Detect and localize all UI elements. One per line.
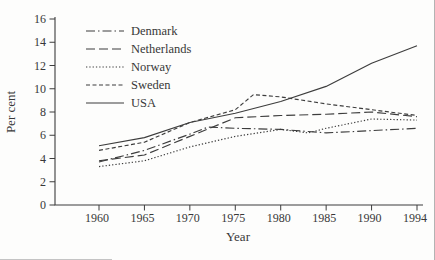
y-axis-title: Per cent — [3, 90, 18, 133]
y-tick-label: 0 — [40, 198, 46, 212]
x-axis-title: Year — [226, 229, 251, 244]
x-tick-label: 1960 — [85, 211, 109, 225]
legend-item-norway: Norway — [86, 60, 172, 74]
y-tick-label: 14 — [34, 35, 46, 49]
legend: DenmarkNetherlandsNorwaySwedenUSA — [86, 24, 192, 110]
axis-lines — [55, 17, 423, 205]
legend-item-netherlands: Netherlands — [86, 42, 192, 56]
legend-item-usa: USA — [86, 96, 156, 110]
legend-label: Netherlands — [131, 42, 192, 56]
chart-canvas: Per cent Year 02468101214161960196519701… — [0, 0, 435, 260]
x-tick-label: 1985 — [312, 211, 336, 225]
y-tick-label: 8 — [40, 105, 46, 119]
series-line-norway — [99, 119, 417, 167]
x-tick-label: 1990 — [358, 211, 382, 225]
legend-label: USA — [131, 96, 156, 110]
legend-item-sweden: Sweden — [86, 78, 171, 92]
y-tick-label: 16 — [34, 12, 46, 26]
y-tick-label: 2 — [40, 175, 46, 189]
x-tick-label: 1970 — [176, 211, 200, 225]
y-tick-label: 10 — [34, 82, 46, 96]
x-tick-label: 1965 — [130, 211, 154, 225]
x-tick-label: 1980 — [267, 211, 291, 225]
legend-item-denmark: Denmark — [86, 24, 178, 38]
y-tick-label: 4 — [40, 152, 46, 166]
y-tick-label: 6 — [40, 128, 46, 142]
x-tick-label: 1994 — [403, 211, 427, 225]
y-tick-label: 12 — [34, 59, 46, 73]
legend-label: Sweden — [131, 78, 171, 92]
legend-label: Norway — [131, 60, 172, 74]
legend-label: Denmark — [131, 24, 178, 38]
axes: 0246810121416196019651970197519801985199… — [34, 12, 427, 225]
x-tick-label: 1975 — [221, 211, 245, 225]
line-chart-figure: Per cent Year 02468101214161960196519701… — [0, 0, 435, 260]
